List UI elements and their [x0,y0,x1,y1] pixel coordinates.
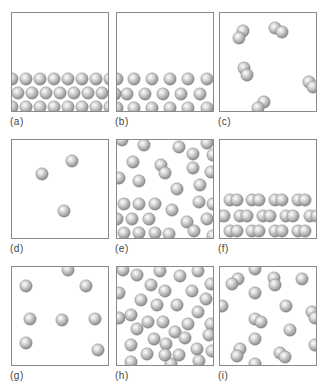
atom-sphere [125,309,137,321]
diatomic-molecule [292,194,311,206]
atom-sphere [159,285,171,297]
atom-sphere [205,278,214,290]
particle-canvas [12,13,109,112]
panel-g [11,266,109,366]
particle-canvas [220,13,317,112]
atom-sphere [12,101,18,112]
atom-sphere [191,343,203,355]
atom-sphere [203,329,214,341]
atom-sphere [56,314,68,326]
atom-sphere [146,73,158,85]
diatomic-molecule [246,194,265,206]
atom-sphere [157,316,169,328]
atom-sphere [226,278,238,290]
atom-sphere [149,198,161,210]
atom-sphere [138,140,150,151]
panel-label-f: (f) [218,243,229,254]
atom-sphere [192,306,204,318]
atom-sphere [89,313,101,325]
atom-sphere [80,280,92,292]
atom-sphere [159,349,171,361]
atom-sphere [164,73,176,85]
atom-sphere [40,87,52,99]
atom-sphere [145,279,157,291]
panel-e [116,139,214,239]
panel-label-d: (d) [10,243,24,254]
atom-sphere [187,148,199,160]
panel-f [219,139,317,239]
atom-sphere [117,287,125,299]
atom-sphere [253,194,265,206]
atom-sphere [287,210,299,222]
atom-sphere [194,88,206,100]
diatomic-molecule [292,225,311,237]
atom-sphere [151,299,163,311]
atom-sphere [58,205,70,217]
atom-sphere [194,179,206,191]
atom-sphere [206,345,214,357]
atom-sphere [62,267,74,276]
atom-sphere [117,102,123,112]
atom-sphere [276,225,288,237]
atom-sphere [182,318,194,330]
atom-sphere [284,324,296,336]
atom-sphere [82,87,94,99]
atom-sphere [264,210,276,222]
atom-sphere [201,102,213,112]
atom-sphere [54,87,66,99]
atom-sphere [135,294,147,306]
atom-sphere [146,102,158,112]
atom-sphere [34,101,46,112]
atom-sphere [249,333,261,345]
atom-sphere [34,73,46,85]
atom-sphere [192,267,204,277]
diatomic-molecule [224,194,243,206]
atom-sphere [299,194,311,206]
atom-sphere [296,273,308,285]
atom-sphere [154,267,166,277]
atom-sphere [231,350,243,362]
atom-sphere [299,225,311,237]
atom-sphere [193,196,205,208]
atom-sphere [241,210,253,222]
particle-canvas [117,267,214,366]
atom-sphere [201,140,213,149]
atom-sphere [231,194,243,206]
atom-sphere [133,227,145,239]
atom-sphere [241,69,253,81]
atom-sphere [205,318,214,330]
atom-sphere [280,300,292,312]
diatomic-molecule [231,343,246,362]
atom-sphere [118,198,130,210]
diatomic-molecule [249,313,267,328]
particle-canvas [117,140,214,239]
atom-sphere [139,88,151,100]
atom-sphere [269,279,281,291]
atom-sphere [159,167,171,179]
atom-sphere [276,194,288,206]
atom-sphere [26,87,38,99]
atom-sphere [175,88,187,100]
panel-b [116,12,214,112]
diatomic-molecule [269,22,288,38]
atom-sphere [96,87,108,99]
atom-sphere [48,101,60,112]
atom-sphere [173,349,185,361]
atom-sphere [157,88,169,100]
atom-sphere [92,344,104,356]
atom-sphere [231,225,243,237]
atom-sphere [253,225,265,237]
panel-label-c: (c) [218,116,231,127]
atom-sphere [131,323,143,335]
atom-sphere [48,73,60,85]
atom-sphere [186,285,198,297]
diatomic-molecule [224,225,243,237]
atom-sphere [12,73,18,85]
atom-sphere [207,198,214,210]
atom-sphere [143,213,155,225]
atom-sphere [104,101,109,112]
atom-sphere [121,88,133,100]
diatomic-molecule [233,25,249,44]
atom-sphere [12,87,24,99]
atom-sphere [252,102,264,112]
